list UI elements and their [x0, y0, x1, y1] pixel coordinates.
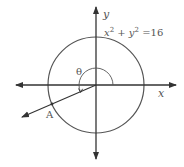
circle-equation: x2 + y2 =16	[104, 26, 163, 38]
unit-circle-diagram: y x θ A x2 + y2 =16	[0, 0, 184, 167]
point-a-label: A	[45, 109, 54, 120]
terminal-ray	[22, 85, 96, 117]
y-axis-label: y	[102, 8, 110, 21]
point-a	[51, 103, 54, 106]
theta-label: θ	[76, 66, 82, 77]
x-axis-label: x	[158, 87, 165, 100]
